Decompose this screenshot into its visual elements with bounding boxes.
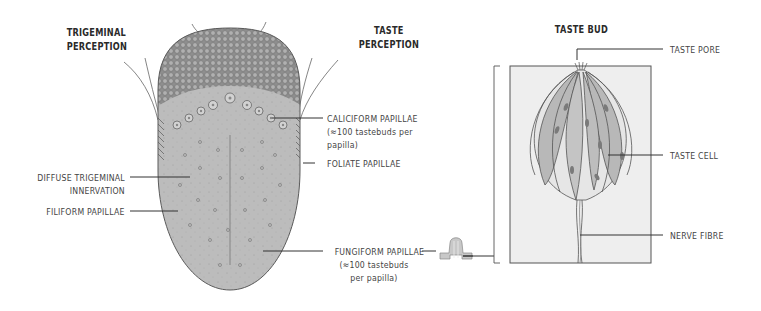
tongue-illustration [150, 20, 310, 300]
heading-line: PERCEPTION [67, 40, 128, 54]
label-line: DIFFUSE TRIGEMINAL [37, 171, 125, 184]
label-line: (≈100 tastebuds [335, 258, 414, 271]
label-line: INNERVATION [37, 184, 125, 197]
label-filiform-papillae: FILIFORM PAPILLAE [47, 205, 125, 218]
label-line: CALICIFORM PAPILLAE [327, 112, 418, 125]
heading-trigeminal-perception: TRIGEMINAL PERCEPTION [67, 26, 128, 54]
label-line: FUNGIFORM PAPILLAE [335, 245, 414, 258]
label-fungiform-papillae: FUNGIFORM PAPILLAE (≈100 tastebuds per p… [335, 245, 414, 284]
heading-line: TRIGEMINAL [67, 26, 128, 40]
heading-line: TASTE [359, 24, 420, 38]
label-nerve-fibre: NERVE FIBRE [670, 229, 724, 242]
label-caliciform-papillae: CALICIFORM PAPILLAE (≈100 tastebuds per … [327, 112, 418, 151]
heading-line: PERCEPTION [359, 38, 420, 52]
label-line: papilla) [327, 138, 418, 151]
heading-taste-perception: TASTE PERCEPTION [359, 24, 420, 52]
label-line: (≈100 tastebuds per [327, 125, 418, 138]
label-diffuse-trigeminal-innervation: DIFFUSE TRIGEMINAL INNERVATION [37, 171, 125, 197]
label-taste-cell: TASTE CELL [670, 149, 718, 162]
label-foliate-papillae: FOLIATE PAPILLAE [327, 157, 401, 170]
label-taste-pore: TASTE PORE [670, 43, 720, 56]
label-line: per papilla) [335, 271, 414, 284]
heading-taste-bud: TASTE BUD [555, 23, 608, 37]
